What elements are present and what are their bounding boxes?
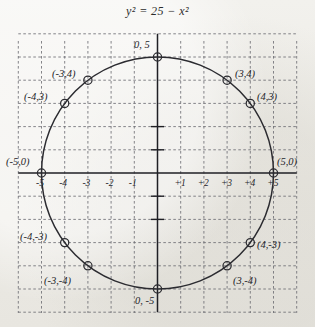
label-point-neg4-3: (-4,3) bbox=[24, 91, 48, 103]
circle-graph-svg: 0, 5 (-3,4) (3,4) (-4,3) (4,3) (-5,0) (5… bbox=[0, 26, 315, 327]
label-point-neg4-neg3: (-4,-3) bbox=[20, 231, 48, 243]
label-point-neg3-4: (-3,4) bbox=[52, 68, 76, 80]
x-tick-pos1: +1 bbox=[175, 178, 186, 188]
label-point-0-5: 0, 5 bbox=[134, 39, 150, 50]
x-tick-neg5: -5 bbox=[36, 178, 44, 188]
label-point-neg5-0: (-5,0) bbox=[6, 156, 30, 168]
x-tick-neg4: -4 bbox=[59, 178, 67, 188]
label-point-3-4: (3,4) bbox=[235, 68, 256, 80]
x-tick-pos5: +5 bbox=[267, 178, 278, 188]
label-point-4-neg3: (4,-3) bbox=[257, 239, 281, 251]
label-point-3-neg4: (3,-4) bbox=[233, 275, 257, 287]
x-tick-neg1: -1 bbox=[129, 178, 137, 188]
figure-title: y² = 25 − x² bbox=[0, 4, 315, 19]
label-point-0-neg5: 0, -5 bbox=[135, 295, 154, 306]
x-tick-neg2: -2 bbox=[106, 178, 114, 188]
x-tick-pos3: +3 bbox=[221, 178, 232, 188]
label-point-neg3-neg4: (-3,-4) bbox=[44, 275, 72, 287]
x-tick-pos2: +2 bbox=[198, 178, 209, 188]
graph-plot-area: 0, 5 (-3,4) (3,4) (-4,3) (4,3) (-5,0) (5… bbox=[0, 26, 315, 327]
label-point-5-0: (5,0) bbox=[277, 156, 298, 168]
x-tick-neg3: -3 bbox=[82, 178, 90, 188]
label-point-4-3: (4,3) bbox=[257, 91, 278, 103]
x-tick-pos4: +4 bbox=[244, 178, 255, 188]
